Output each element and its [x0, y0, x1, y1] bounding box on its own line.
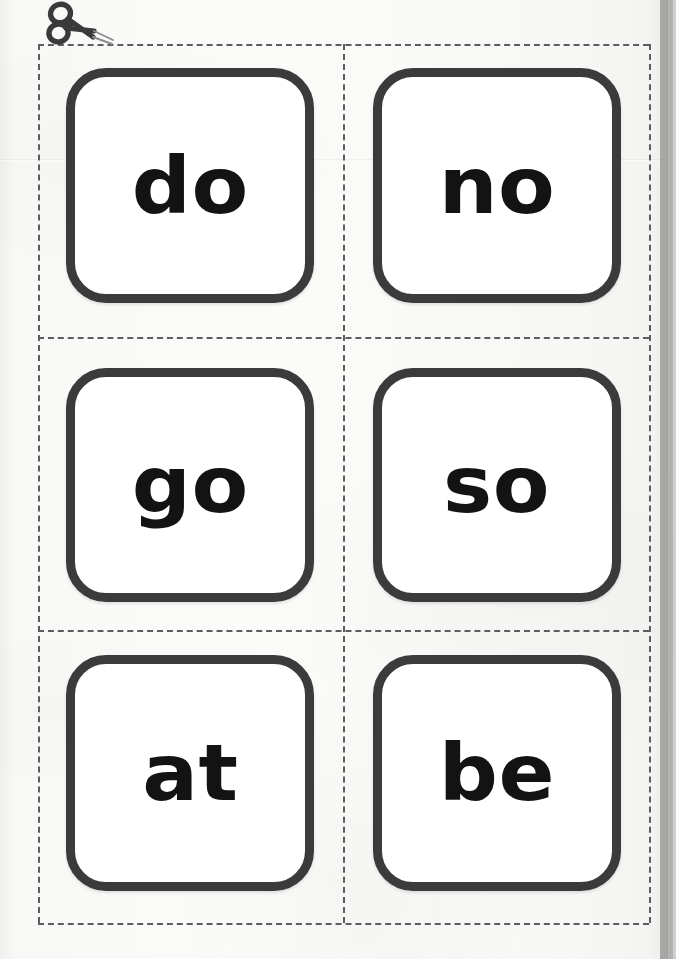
flashcard-word: go: [131, 446, 248, 524]
flashcard-so[interactable]: so: [373, 368, 621, 602]
flashcard-at[interactable]: at: [66, 655, 314, 891]
flashcard-word: be: [439, 734, 555, 812]
flashcard-do[interactable]: do: [66, 68, 314, 303]
flashcard-word: so: [443, 446, 550, 524]
flashcard-word: at: [142, 734, 238, 812]
flashcard-sheet: do no go so at be: [0, 0, 676, 959]
flashcard-go[interactable]: go: [66, 368, 314, 602]
flashcard-word: no: [439, 147, 556, 225]
flashcard-no[interactable]: no: [373, 68, 621, 303]
flashcard-be[interactable]: be: [373, 655, 621, 891]
flashcard-grid: do no go so at be: [0, 0, 676, 959]
flashcard-word: do: [131, 147, 248, 225]
